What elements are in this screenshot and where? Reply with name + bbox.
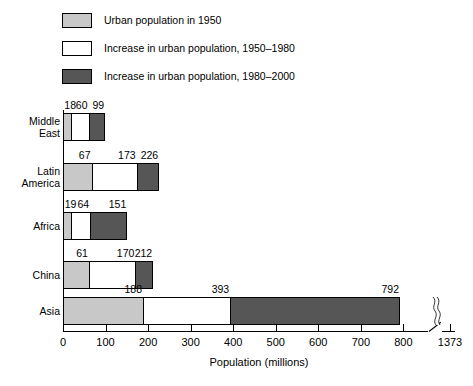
bar-value-label: 393 xyxy=(212,284,231,295)
segment-1950-1980 xyxy=(92,163,137,191)
x-axis-tick-label: 500 xyxy=(267,336,285,348)
bar-value-label: 67 xyxy=(79,150,92,161)
category-label-line: Asia xyxy=(0,305,60,317)
category-label: China xyxy=(0,269,60,281)
category-label: Asia xyxy=(0,305,60,317)
x-axis-tick-label: 0 xyxy=(60,336,66,348)
category-label: LatinAmerica xyxy=(0,165,60,189)
bar-value-label: 61 xyxy=(76,248,89,259)
bar-value-label: 792 xyxy=(381,284,400,295)
bar-value-label: 19 xyxy=(65,199,78,210)
category-label-line: Middle xyxy=(0,115,60,127)
plot-area: 01002003004005006007008001373 Population… xyxy=(0,0,473,386)
x-axis-tick-label: 1373 xyxy=(438,336,462,348)
category-label-line: Latin xyxy=(0,165,60,177)
category-label: MiddleEast xyxy=(0,115,60,139)
bar-value-label: 151 xyxy=(109,199,128,210)
segment-1950-1980 xyxy=(71,212,90,240)
x-axis-tick xyxy=(318,324,319,332)
segment-1980-2000 xyxy=(89,113,106,141)
segment-1980-2000 xyxy=(137,163,160,191)
bar-value-label: 188 xyxy=(124,284,143,295)
segment-1950 xyxy=(63,297,143,325)
bar-middle-east[interactable] xyxy=(63,113,105,141)
bar-africa[interactable] xyxy=(63,212,127,240)
category-label-line: America xyxy=(0,177,60,189)
x-axis-tick xyxy=(191,324,192,332)
category-label-line: China xyxy=(0,269,60,281)
category-label-line: Africa xyxy=(0,220,60,232)
segment-1950 xyxy=(63,261,89,289)
x-axis-title: Population (millions) xyxy=(63,356,455,368)
bar-value-label: 170 xyxy=(117,248,136,259)
x-axis-tick-label: 400 xyxy=(224,336,242,348)
x-axis-tick xyxy=(106,324,107,332)
x-axis-tick-label: 100 xyxy=(96,336,114,348)
segment-1980-2000 xyxy=(90,212,127,240)
segment-1950-1980 xyxy=(71,113,89,141)
bar-value-label: 60 xyxy=(76,100,89,111)
bar-value-label: 212 xyxy=(135,248,154,259)
x-axis-tick xyxy=(276,324,277,332)
x-axis-line xyxy=(63,331,455,332)
segment-1950 xyxy=(63,113,71,141)
bar-latin-america[interactable] xyxy=(63,163,159,191)
x-axis-tick xyxy=(361,324,362,332)
bar-value-label: 173 xyxy=(118,150,137,161)
x-axis-tick-label: 700 xyxy=(352,336,370,348)
chart-figure: Urban population in 1950 Increase in urb… xyxy=(0,0,473,386)
bar-value-label: 99 xyxy=(92,100,105,111)
segment-1950 xyxy=(63,163,92,191)
bar-value-label: 64 xyxy=(78,199,91,210)
x-axis-tick-label: 300 xyxy=(181,336,199,348)
bar-break-icon xyxy=(429,297,445,325)
category-label: Africa xyxy=(0,220,60,232)
bar-asia[interactable] xyxy=(63,297,400,325)
x-axis-tick xyxy=(148,324,149,332)
x-axis-tick xyxy=(63,324,64,332)
x-axis-tick xyxy=(450,324,451,332)
segment-1980-2000 xyxy=(230,297,400,325)
category-label-line: East xyxy=(0,127,60,139)
x-axis-tick-label: 200 xyxy=(139,336,157,348)
x-axis-tick xyxy=(233,324,234,332)
x-axis-tick-label: 800 xyxy=(394,336,412,348)
x-axis-tick xyxy=(403,324,404,332)
bar-value-label: 226 xyxy=(141,150,160,161)
x-axis-tick-label: 600 xyxy=(309,336,327,348)
segment-1950-1980 xyxy=(143,297,230,325)
segment-1950 xyxy=(63,212,71,240)
